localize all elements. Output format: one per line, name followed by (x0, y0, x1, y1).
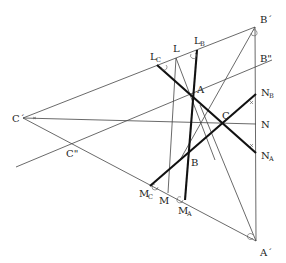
label-m-c-sub: C (148, 193, 153, 201)
label-l-c-sub: C (156, 56, 161, 64)
label-c-dprime: C" (66, 148, 78, 159)
label-n-b-sub: B (269, 92, 274, 100)
label-a: A (196, 84, 205, 95)
line-l-b-to-m-a (185, 50, 197, 200)
line-a-prime-a (200, 105, 256, 241)
side-c-prime-a-prime (23, 118, 256, 241)
angle-mark-l-c (161, 65, 167, 70)
line-l-c-to-n-a (157, 65, 256, 153)
label-n-a-sub: A (268, 155, 274, 163)
label-b-dprime: B" (260, 53, 272, 64)
geometry-diagram: B´ B" C´ C" A´ A C B L L B L C M M A M C… (0, 0, 286, 263)
cross-mark-n-a (250, 144, 253, 147)
side-c-prime-b-prime (23, 27, 255, 118)
label-b-prime: B´ (260, 14, 272, 25)
label-m-a-sub: A (186, 210, 192, 218)
label-c: C (222, 110, 230, 121)
label-l-b-sub: B (200, 40, 205, 48)
label-b: B (191, 157, 198, 168)
label-c-prime: C´ (12, 113, 25, 124)
label-l: L (173, 43, 180, 54)
label-a-prime: A´ (259, 247, 272, 258)
label-m: M (159, 195, 169, 206)
label-n: N (261, 119, 270, 130)
cross-mark-n-b (250, 101, 253, 104)
side-b-prime-a-prime (255, 27, 256, 241)
